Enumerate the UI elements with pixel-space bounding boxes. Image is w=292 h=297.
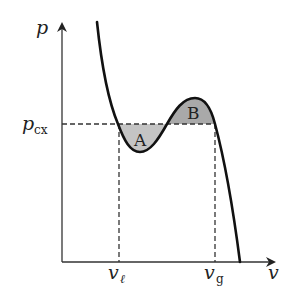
svg-text:v: v: [108, 261, 119, 283]
pcx-label: p cx: [22, 112, 48, 137]
svg-text:cx: cx: [34, 123, 48, 137]
svg-text:g: g: [216, 272, 224, 286]
vl-label: v ℓ: [108, 261, 125, 286]
svg-text:v: v: [204, 261, 215, 283]
svg-text:ℓ: ℓ: [120, 272, 125, 286]
region-a-label: A: [133, 130, 147, 150]
y-axis-label: p: [36, 16, 48, 38]
pv-diagram: p v p cx v ℓ v g A B: [0, 0, 292, 297]
svg-text:p: p: [22, 112, 34, 134]
vg-label: v g: [204, 261, 224, 286]
x-axis-label: v: [268, 261, 279, 283]
region-b-label: B: [187, 103, 200, 123]
